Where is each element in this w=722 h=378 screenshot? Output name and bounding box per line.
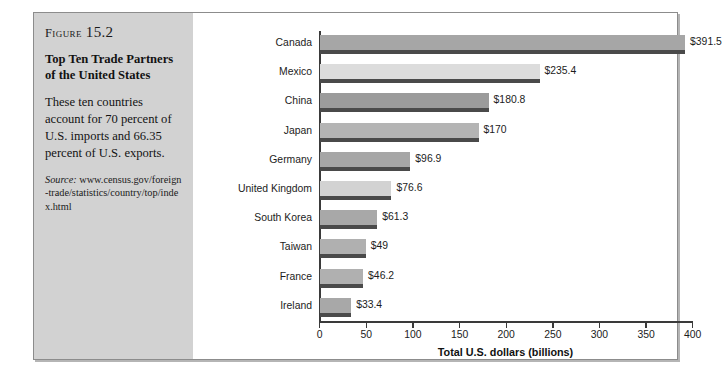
figure-description: These ten countries account for 70 perce… bbox=[45, 94, 184, 162]
x-axis-tick-label: 300 bbox=[591, 330, 608, 340]
x-axis-tick bbox=[506, 323, 507, 328]
x-axis-tick bbox=[599, 323, 600, 328]
bar-shadow bbox=[320, 167, 410, 171]
bar bbox=[320, 152, 410, 167]
x-axis-tick bbox=[412, 323, 413, 328]
bar-value-label: $46.2 bbox=[368, 271, 394, 281]
bar bbox=[320, 64, 540, 79]
bar-value-label: $61.3 bbox=[382, 212, 408, 222]
x-axis-tick bbox=[319, 323, 320, 328]
figure-label-word: Figure bbox=[45, 26, 82, 40]
bar bbox=[320, 269, 363, 284]
bar-value-label: $96.9 bbox=[415, 154, 441, 164]
bar-shadow bbox=[320, 196, 391, 200]
bar-value-label: $170 bbox=[484, 125, 507, 135]
bar-value-label: $49 bbox=[371, 241, 388, 251]
x-axis-title: Total U.S. dollars (billions) bbox=[438, 347, 573, 358]
bar-row: $180.8 bbox=[320, 93, 489, 112]
bar-row: $76.6 bbox=[320, 181, 391, 200]
bar bbox=[320, 210, 377, 225]
x-axis-tick bbox=[692, 323, 693, 328]
bar-row: $96.9 bbox=[320, 152, 410, 171]
x-axis-tick bbox=[459, 323, 460, 328]
category-label: France bbox=[193, 272, 312, 282]
x-axis-tick-label: 150 bbox=[451, 330, 468, 340]
x-axis-tick-label: 350 bbox=[637, 330, 654, 340]
bar bbox=[320, 298, 351, 313]
caption-panel: Figure 15.2 Top Ten Trade Partners of th… bbox=[34, 13, 193, 359]
figure-frame: Figure 15.2 Top Ten Trade Partners of th… bbox=[33, 12, 678, 360]
figure-label-number: 15.2 bbox=[86, 24, 113, 40]
x-axis-tick bbox=[552, 323, 553, 328]
category-label: China bbox=[193, 96, 312, 106]
figure-source-word: Source: bbox=[45, 174, 77, 185]
bar-shadow bbox=[320, 138, 479, 142]
bar bbox=[320, 93, 489, 108]
bar-row: $46.2 bbox=[320, 269, 363, 288]
category-label: Ireland bbox=[193, 301, 312, 311]
bar bbox=[320, 35, 685, 50]
figure-title: Top Ten Trade Partners of the United Sta… bbox=[45, 51, 184, 83]
category-label: Taiwan bbox=[193, 242, 312, 252]
category-label: Mexico bbox=[193, 67, 312, 77]
bar-row: $391.5 bbox=[320, 35, 685, 54]
bar-shadow bbox=[320, 79, 540, 83]
x-axis-tick-label: 100 bbox=[404, 330, 421, 340]
bar-value-label: $180.8 bbox=[494, 95, 526, 105]
figure-label: Figure 15.2 bbox=[45, 23, 184, 41]
category-label: Japan bbox=[193, 126, 312, 136]
figure-source: Source: www.census.gov/foreign-trade/sta… bbox=[45, 173, 184, 214]
bar-row: $170 bbox=[320, 123, 479, 142]
bar bbox=[320, 181, 391, 196]
bar-value-label: $33.4 bbox=[356, 300, 382, 310]
category-label: United Kingdom bbox=[193, 184, 312, 194]
bar-shadow bbox=[320, 254, 366, 258]
bar-shadow bbox=[320, 50, 685, 54]
bar-shadow bbox=[320, 225, 377, 229]
bar-value-label: $76.6 bbox=[396, 183, 422, 193]
category-label: Germany bbox=[193, 155, 312, 165]
category-label: South Korea bbox=[193, 213, 312, 223]
x-axis-tick-label: 0 bbox=[317, 330, 323, 340]
bar-value-label: $235.4 bbox=[545, 66, 577, 76]
bar bbox=[320, 239, 366, 254]
bar-shadow bbox=[320, 108, 489, 112]
bar-row: $33.4 bbox=[320, 298, 351, 317]
x-axis-tick-label: 50 bbox=[361, 330, 373, 340]
bar-shadow bbox=[320, 284, 363, 288]
bar-row: $49 bbox=[320, 239, 366, 258]
x-axis-tick-label: 200 bbox=[498, 330, 515, 340]
bar-value-label: $391.5 bbox=[690, 37, 722, 47]
x-axis-tick bbox=[366, 323, 367, 328]
bar bbox=[320, 123, 479, 138]
bar-shadow bbox=[320, 313, 351, 317]
x-axis-tick-label: 400 bbox=[684, 330, 701, 340]
x-axis-tick bbox=[645, 323, 646, 328]
x-axis-tick-label: 250 bbox=[544, 330, 561, 340]
bar-chart: CanadaMexicoChinaJapanGermanyUnited King… bbox=[193, 13, 677, 359]
bar-row: $235.4 bbox=[320, 64, 540, 83]
category-label: Canada bbox=[193, 38, 312, 48]
bar-row: $61.3 bbox=[320, 210, 377, 229]
